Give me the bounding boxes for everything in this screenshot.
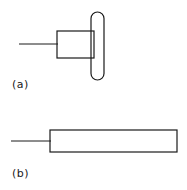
- panel-a-label: (a): [12, 78, 29, 91]
- figure-background: [0, 0, 187, 190]
- figure-drawing: (a) (b): [0, 0, 187, 190]
- figure-container: (a) (b): [0, 0, 187, 190]
- panel-b-label: (b): [12, 167, 29, 180]
